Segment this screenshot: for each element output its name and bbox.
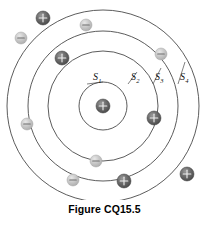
particle-9-positive <box>117 174 131 188</box>
shell-labels-group: S1S2S3S4 <box>93 71 189 84</box>
particle-2-negative <box>15 32 27 44</box>
particle-5-negative <box>21 118 33 130</box>
particle-10-positive <box>180 167 194 181</box>
particle-7-negative <box>90 155 102 167</box>
shell-label-s4: S4 <box>180 71 189 84</box>
particle-4-positive <box>55 51 69 65</box>
nucleus <box>96 99 110 113</box>
nucleus-particle-positive <box>96 99 110 113</box>
particle-3-negative <box>155 48 167 60</box>
figure-container: S1S2S3S4 Figure CQ15.5 <box>0 0 209 229</box>
particle-8-negative <box>67 174 79 186</box>
shell-label-s3: S3 <box>155 71 164 84</box>
figure-caption: Figure CQ15.5 <box>0 203 209 215</box>
particle-0-positive <box>36 11 50 25</box>
shell-label-s1: S1 <box>93 71 102 84</box>
particle-6-positive <box>147 111 161 125</box>
shell-label-s2: S2 <box>131 71 140 84</box>
particle-1-negative <box>80 19 92 31</box>
atom-shell-diagram: S1S2S3S4 <box>0 0 209 200</box>
